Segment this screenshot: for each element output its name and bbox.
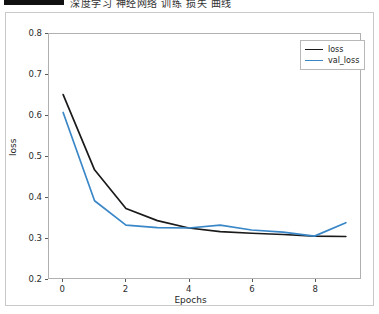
x-tick-label: 8 — [312, 284, 317, 294]
top-header-strip: 深度学习 神经网络 训练 损失 曲线 — [0, 0, 379, 11]
y-tick-label: 0.7 — [28, 69, 42, 79]
line-series-loss — [63, 95, 346, 237]
matplotlib-figure: loss val_loss 0.20.30.40.50.60.70.8 0246… — [6, 13, 374, 306]
y-tick-label: 0.6 — [28, 110, 42, 120]
y-tick-mark — [45, 115, 48, 116]
chart-card: loss val_loss 0.20.30.40.50.60.70.8 0246… — [5, 12, 374, 306]
y-tick-mark — [45, 156, 48, 157]
header-title: 深度学习 神经网络 训练 损失 曲线 — [70, 0, 232, 10]
x-tick-mark — [125, 279, 126, 282]
x-tick-mark — [62, 279, 63, 282]
legend-swatch-val-loss — [305, 60, 323, 61]
x-tick-label: 0 — [60, 284, 65, 294]
x-tick-mark — [252, 279, 253, 282]
y-tick-label: 0.3 — [28, 233, 42, 243]
y-tick-label: 0.4 — [28, 192, 42, 202]
legend-label-val-loss: val_loss — [328, 56, 359, 65]
x-tick-mark — [315, 279, 316, 282]
y-tick-mark — [45, 74, 48, 75]
y-tick-label: 0.5 — [28, 151, 42, 161]
y-axis-title: loss — [8, 139, 18, 156]
line-series-val-loss — [63, 112, 346, 236]
legend-item-loss: loss — [305, 44, 359, 55]
header-black-bar — [4, 0, 64, 5]
y-tick-mark — [45, 33, 48, 34]
legend-label-loss: loss — [328, 45, 343, 54]
chart-legend: loss val_loss — [300, 40, 365, 70]
y-tick-mark — [45, 197, 48, 198]
legend-item-val-loss: val_loss — [305, 55, 359, 66]
y-tick-label: 0.8 — [28, 28, 42, 38]
x-axis-title: Epochs — [6, 295, 374, 305]
x-tick-mark — [189, 279, 190, 282]
x-tick-label: 6 — [249, 284, 254, 294]
y-tick-mark — [45, 238, 48, 239]
y-tick-mark — [45, 279, 48, 280]
line-series-svg — [49, 34, 360, 278]
plot-axes-area: loss val_loss — [48, 33, 361, 279]
legend-swatch-loss — [305, 49, 323, 50]
y-tick-label: 0.2 — [28, 274, 42, 284]
x-tick-label: 4 — [186, 284, 191, 294]
x-tick-label: 2 — [123, 284, 128, 294]
